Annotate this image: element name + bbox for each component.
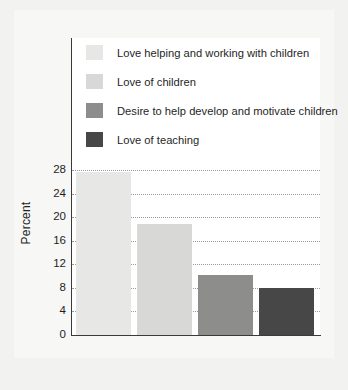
y-axis-title: Percent <box>19 183 33 263</box>
bar <box>198 275 253 335</box>
legend-label: Love of teaching <box>117 134 199 146</box>
legend-swatch <box>86 74 103 89</box>
chart-figure: 2824201612840 Percent Love helping and w… <box>0 0 348 390</box>
y-tick-label: 28 <box>26 164 66 176</box>
y-axis-line <box>71 38 72 335</box>
legend-label: Love of children <box>117 76 196 88</box>
bar <box>137 224 192 335</box>
y-tick-label: 8 <box>26 282 66 294</box>
bar <box>259 288 314 335</box>
legend-item: Love helping and working with children <box>72 38 320 67</box>
bar <box>76 172 131 335</box>
x-axis-line <box>71 335 321 336</box>
legend-item: Desire to help develop and motivate chil… <box>72 96 320 125</box>
plot-area: Love helping and working with childrenLo… <box>72 38 320 335</box>
y-tick-label: 0 <box>26 329 66 341</box>
gridline <box>72 170 320 171</box>
y-tick-label: 4 <box>26 305 66 317</box>
legend-item: Love of teaching <box>72 125 320 154</box>
legend-swatch <box>86 132 103 147</box>
legend-swatch <box>86 103 103 118</box>
legend-swatch <box>86 45 103 60</box>
legend-label: Desire to help develop and motivate chil… <box>117 105 338 117</box>
legend-label: Love helping and working with children <box>117 47 309 59</box>
chart-legend: Love helping and working with childrenLo… <box>72 38 320 154</box>
legend-item: Love of children <box>72 67 320 96</box>
